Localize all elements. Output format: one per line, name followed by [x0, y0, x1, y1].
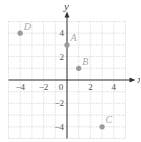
y-tick-label: −2 — [54, 98, 64, 108]
y-tick-label: 4 — [60, 28, 65, 38]
point-label-c: C — [106, 114, 113, 125]
point-a — [64, 42, 69, 47]
point-label-d: D — [23, 21, 32, 32]
point-c — [100, 124, 105, 129]
y-tick-label: −4 — [54, 122, 64, 132]
y-axis-label: y — [63, 0, 69, 12]
y-tick-label: 2 — [60, 52, 65, 62]
point-b — [76, 66, 81, 71]
x-tick-label: 0 — [59, 82, 64, 92]
point-label-a: A — [70, 32, 78, 43]
x-axis-label: x — [137, 73, 141, 85]
x-tick-label: 2 — [88, 82, 93, 92]
x-tick-label: −4 — [15, 82, 25, 92]
x-tick-label: 4 — [112, 82, 117, 92]
y-axis-arrow-icon — [65, 12, 70, 18]
point-label-b: B — [82, 56, 88, 67]
x-tick-label: −2 — [39, 82, 49, 92]
x-axis-arrow-icon — [130, 78, 136, 83]
point-d — [18, 31, 23, 36]
coordinate-plane: −4−2024−4−224 ABCD x y — [0, 0, 140, 142]
